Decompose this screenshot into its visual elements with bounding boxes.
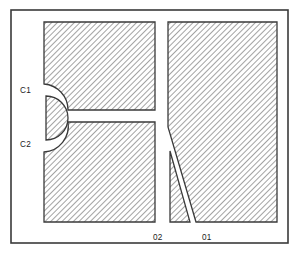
figure-container: C1 C2 02 01	[0, 0, 300, 253]
technical-diagram: C1 C2 02 01	[0, 0, 300, 253]
label-c1: C1	[20, 86, 31, 95]
label-o2: 02	[153, 233, 163, 242]
label-o1: 01	[202, 233, 212, 242]
label-c2: C2	[20, 140, 31, 149]
